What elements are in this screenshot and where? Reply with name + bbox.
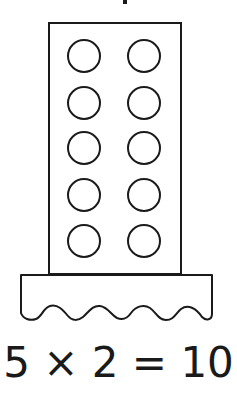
circle (128, 132, 160, 164)
circle (128, 40, 160, 72)
circle (68, 40, 100, 72)
equation-label: 5 × 2 = 10 (0, 338, 237, 388)
circle-grid (68, 40, 160, 257)
top-mark (123, 0, 127, 4)
scalloped-base (21, 275, 212, 320)
circle (128, 225, 160, 257)
circle (68, 225, 100, 257)
circle (68, 87, 100, 119)
circle (68, 179, 100, 211)
circle (68, 132, 100, 164)
circle (128, 87, 160, 119)
circle (128, 179, 160, 211)
